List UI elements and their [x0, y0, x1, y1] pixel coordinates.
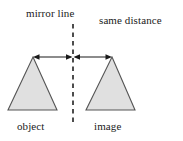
image-triangle: [86, 57, 135, 110]
arrowhead-center-right-icon: [74, 54, 81, 60]
object-triangle: [8, 57, 57, 110]
mirror-diagram: mirror line same distance object image: [0, 0, 183, 141]
image-label: image: [94, 121, 121, 132]
same-distance-label: same distance: [99, 15, 162, 26]
object-label: object: [17, 121, 44, 132]
mirror-line-label: mirror line: [26, 8, 74, 19]
arrowhead-center-left-icon: [66, 54, 73, 60]
